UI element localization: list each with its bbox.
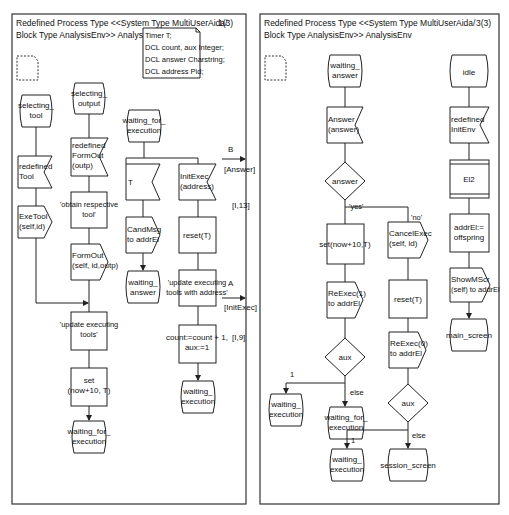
svg-text:Tool: Tool	[19, 172, 34, 181]
label-else-a: else	[350, 388, 364, 397]
svg-text:redefined: redefined	[72, 141, 105, 150]
svg-text:(outp): (outp)	[72, 161, 93, 170]
svg-text:redefined: redefined	[451, 115, 484, 124]
svg-text:set(now+10,T): set(now+10,T)	[319, 240, 371, 249]
note-icon	[265, 56, 286, 80]
svg-text:[I,9]: [I,9]	[232, 333, 245, 342]
state-session-screen: session_screen	[380, 449, 436, 481]
svg-text:waiting_: waiting_	[329, 61, 360, 70]
task-set-timer: set(now+10,T)	[319, 224, 371, 264]
svg-text:FormOut: FormOut	[72, 251, 104, 260]
output-exetool: ExeTool (self,id)	[18, 206, 52, 238]
page3-header-line2: Block Type AnalysisEnv>> AnalysisEnv	[264, 30, 412, 40]
svg-text:reset(T): reset(T)	[394, 295, 422, 304]
svg-text:DCL address Pid;: DCL address Pid;	[145, 67, 204, 76]
svg-text:[Answer]: [Answer]	[224, 165, 255, 174]
svg-text:waiting_: waiting_	[127, 278, 158, 287]
svg-text:A: A	[228, 279, 234, 288]
svg-text:(now+10, T): (now+10, T)	[68, 386, 111, 395]
page1-header-line2: Block Type AnalysisEnv>> AnalysisEnv	[16, 30, 164, 40]
svg-text:InitExec: InitExec	[180, 172, 208, 181]
task-addrel-offspring: addrEl:= offspring	[450, 214, 489, 252]
svg-text:(address): (address)	[180, 182, 214, 191]
svg-text:idle: idle	[463, 68, 476, 77]
svg-text:(self,id): (self,id)	[19, 222, 46, 231]
diagram-page-1: Redefined Process Type <<System Type Mul…	[12, 14, 257, 504]
page1-number: 1(3)	[218, 18, 233, 28]
state-selecting-tool: selecting_ tool	[18, 95, 55, 127]
svg-text:DCL answer Charstring;: DCL answer Charstring;	[145, 55, 225, 64]
svg-text:redefined: redefined	[19, 162, 52, 171]
svg-text:execution: execution	[127, 126, 161, 135]
input-initexec: InitExec (address)	[179, 164, 216, 200]
svg-text:B: B	[228, 145, 233, 154]
svg-text:'obtain respective: 'obtain respective	[60, 200, 118, 209]
svg-text:ShowMScr: ShowMScr	[451, 275, 490, 284]
state-waiting-for-execution-end: waiting_for_ execution	[66, 421, 111, 453]
svg-text:Timer T;: Timer T;	[145, 31, 172, 40]
svg-text:tools with address': tools with address'	[166, 288, 228, 297]
state-waiting-answer: waiting_ answer	[328, 55, 362, 87]
svg-text:ExeTool: ExeTool	[19, 212, 48, 221]
svg-text:CandMsg: CandMsg	[127, 225, 161, 234]
label-one-b: 1	[351, 436, 355, 445]
svg-text:(self, id): (self, id)	[389, 239, 418, 248]
svg-text:execution: execution	[72, 437, 106, 446]
label-else-b: else	[412, 431, 426, 440]
page1-header-line1: Redefined Process Type <<System Type Mul…	[16, 18, 228, 28]
create-el2: El2	[450, 160, 489, 198]
svg-text:T: T	[128, 178, 133, 187]
svg-text:tool': tool'	[82, 210, 96, 219]
input-redefined-formout: redefined FormOut (outp)	[71, 138, 108, 176]
svg-text:'update executing: 'update executing	[60, 320, 119, 329]
svg-text:answer: answer	[130, 288, 156, 297]
svg-text:DCL count, aux Integer;: DCL count, aux Integer;	[145, 43, 224, 52]
svg-text:aux:=1: aux:=1	[185, 343, 210, 352]
task-reset-t: reset(T)	[179, 217, 216, 253]
state-waiting-execution-1: waiting_ execution	[269, 394, 303, 426]
svg-text:waiting_for_: waiting_for_	[121, 116, 166, 125]
state-waiting-for-execution: waiting_for_ execution	[121, 110, 166, 142]
svg-text:main_screen: main_screen	[446, 331, 492, 340]
svg-text:(answer): (answer)	[328, 125, 359, 134]
svg-text:reset(T): reset(T)	[183, 231, 211, 240]
svg-text:'update executing: 'update executing	[168, 278, 227, 287]
page3-number: 3(3)	[476, 18, 491, 28]
svg-text:ReExec(0): ReExec(0)	[390, 339, 428, 348]
label-no: 'no'	[411, 213, 423, 222]
svg-text:selecting_: selecting_	[18, 101, 55, 110]
state-idle: idle	[450, 55, 488, 87]
svg-text:set: set	[84, 376, 95, 385]
svg-text:InitEnv: InitEnv	[451, 125, 475, 134]
svg-text:(self, id,outp): (self, id,outp)	[72, 261, 119, 270]
task-set-timer: set (now+10, T)	[68, 368, 111, 406]
state-selecting-output: selecting_ output	[71, 83, 108, 114]
state-waiting-execution: waiting_ execution	[181, 381, 215, 413]
svg-text:to addrEl: to addrEl	[127, 235, 159, 244]
svg-text:CancelExec: CancelExec	[389, 229, 432, 238]
svg-text:aux: aux	[339, 353, 352, 362]
state-waiting-for-execution: waiting_for_ execution	[323, 407, 368, 439]
svg-text:(self) to addrEl: (self) to addrEl	[451, 285, 500, 294]
svg-text:output: output	[78, 99, 101, 108]
svg-text:offspring: offspring	[454, 233, 485, 242]
svg-text:waiting_for_: waiting_for_	[323, 413, 368, 422]
svg-text:to addrEl: to addrEl	[390, 349, 422, 358]
svg-text:to addrEl: to addrEl	[328, 299, 360, 308]
svg-text:count:=count + 1,: count:=count + 1,	[166, 333, 228, 342]
svg-text:answer: answer	[332, 71, 358, 80]
svg-text:tools': tools'	[80, 330, 98, 339]
svg-text:execution: execution	[269, 410, 303, 419]
svg-text:aux: aux	[402, 399, 415, 408]
svg-text:answer: answer	[332, 177, 358, 186]
svg-text:selecting_: selecting_	[71, 89, 108, 98]
svg-text:session_screen: session_screen	[380, 461, 436, 470]
svg-text:waiting_: waiting_	[331, 455, 362, 464]
svg-text:Answer: Answer	[328, 115, 355, 124]
svg-text:waiting_for_: waiting_for_	[66, 427, 111, 436]
svg-text:waiting_: waiting_	[182, 387, 213, 396]
diagram-page-3: Redefined Process Type <<System Type Mul…	[260, 14, 500, 504]
svg-text:execution: execution	[329, 423, 363, 432]
state-waiting-execution-2: waiting_ execution	[330, 449, 364, 481]
svg-text:ReExec(1): ReExec(1)	[328, 289, 366, 298]
